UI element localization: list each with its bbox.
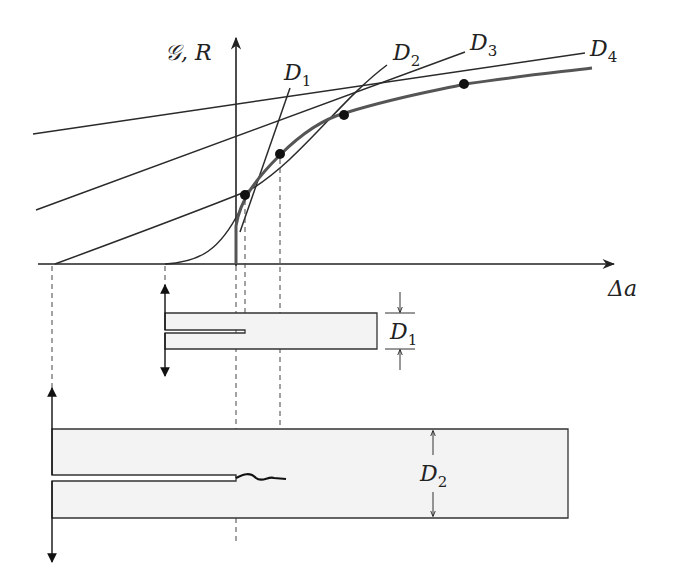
tangent-point-d2 (275, 149, 285, 159)
tangent-point-d3 (339, 110, 349, 120)
dim-label-d1: D1 (389, 319, 417, 349)
specimen-large-body (52, 429, 568, 518)
label-d4: D4 (589, 36, 617, 66)
driving-line-d3 (36, 52, 465, 210)
tangent-point-d1 (240, 190, 250, 200)
x-axis-label: Δa (607, 276, 637, 301)
tangent-point-d4 (459, 79, 469, 89)
specimen-small-upper-arm (165, 313, 377, 349)
r-curve (236, 68, 592, 264)
line-labels: D1 D2 D3 D4 (283, 30, 617, 90)
r-curve-diagram: 𝒢, R Δa D1 D2 D3 D4 (0, 0, 679, 583)
label-d3: D3 (469, 30, 497, 60)
tangent-points (240, 79, 469, 200)
label-d2: D2 (392, 40, 420, 70)
specimen-small: D1 (165, 285, 417, 376)
driving-line-d2 (55, 65, 387, 264)
driving-line-d1 (240, 88, 290, 232)
specimen-large: D2 (52, 388, 568, 562)
y-axis-label: 𝒢, R (165, 40, 212, 65)
axes: 𝒢, R Δa (38, 38, 637, 301)
label-d1: D1 (283, 60, 311, 90)
driving-line-d4 (33, 53, 585, 134)
